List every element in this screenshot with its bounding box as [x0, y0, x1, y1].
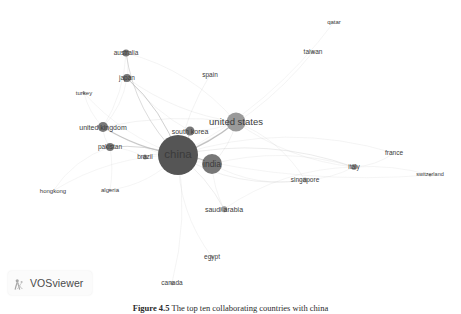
network-edge	[236, 122, 354, 167]
network-edge	[236, 122, 305, 180]
network-node-pakistan[interactable]	[106, 143, 114, 151]
network-edge	[354, 153, 394, 167]
network-node-turkey[interactable]	[83, 92, 86, 95]
network-edge	[305, 167, 354, 180]
figure-caption-text: The top ten collaborating countries with…	[171, 303, 328, 313]
network-node-saudi-arabia[interactable]	[221, 206, 227, 212]
network-edge	[126, 53, 236, 122]
network-edge	[103, 118, 236, 127]
network-edge	[110, 147, 112, 190]
network-node-italy[interactable]	[351, 164, 357, 170]
network-node-singapore[interactable]	[303, 178, 308, 183]
network-edge	[103, 78, 127, 127]
vosviewer-logo-text: VOSviewer	[30, 277, 83, 289]
network-node-united-kingdom[interactable]	[98, 122, 108, 132]
network-node-japan[interactable]	[123, 74, 131, 82]
network-edge	[103, 53, 126, 127]
network-edges-layer	[0, 0, 461, 294]
network-edge	[127, 78, 190, 131]
vosviewer-network-glyph-icon	[13, 277, 26, 290]
network-edge	[110, 147, 145, 157]
figure-caption-label: Figure 4.5	[133, 303, 170, 313]
network-node-south-korea[interactable]	[186, 127, 195, 136]
vosviewer-logo[interactable]: VOSviewer	[8, 271, 92, 295]
network-node-india[interactable]	[202, 154, 222, 174]
network-edge	[224, 167, 354, 209]
network-map-canvas[interactable]: chinaunited statesindiasouth koreaunited…	[0, 0, 461, 294]
network-edge	[178, 52, 313, 155]
network-node-brazil[interactable]	[143, 155, 148, 160]
network-edge	[212, 155, 354, 167]
network-edge	[127, 78, 236, 122]
network-node-united-states[interactable]	[227, 113, 246, 132]
network-node-canada[interactable]	[170, 281, 174, 285]
network-node-australia[interactable]	[123, 50, 130, 57]
network-node-china[interactable]	[158, 135, 198, 175]
network-edge	[53, 147, 110, 191]
vosviewer-figure: chinaunited statesindiasouth koreaunited…	[0, 0, 461, 314]
figure-caption: Figure 4.5 The top ten collaborating cou…	[0, 303, 461, 314]
network-node-switzerland[interactable]	[429, 174, 432, 177]
network-edge	[212, 164, 305, 182]
network-edge	[354, 166, 430, 175]
